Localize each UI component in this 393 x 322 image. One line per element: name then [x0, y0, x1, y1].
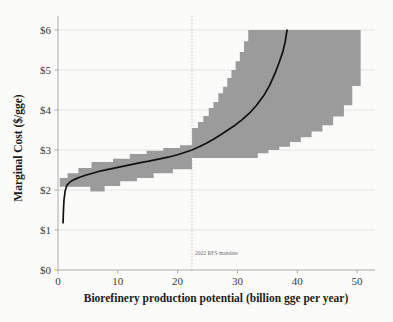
x-axis-title: Biorefinery production potential (billio… [84, 292, 349, 305]
y-tick-label: $1 [40, 224, 51, 236]
uncertainty-band [60, 30, 361, 224]
y-tick-label: $0 [40, 264, 52, 276]
y-axis-title: Marginal Cost ($/gge) [12, 94, 25, 201]
x-tick-label: 30 [232, 275, 244, 287]
x-tick-label: 20 [172, 275, 184, 287]
y-tick-label: $3 [40, 144, 52, 156]
x-tick-label: 40 [292, 275, 304, 287]
y-tick-label: $5 [40, 64, 52, 76]
mandate-annotation-label: 2022 RFS mandate [195, 250, 238, 256]
y-tick-label: $6 [40, 24, 52, 36]
y-tick-label: $2 [40, 184, 51, 196]
x-tick-label: 50 [352, 275, 364, 287]
uncertainty-band-area [60, 30, 361, 224]
x-axis-tick-labels: 01020304050 [55, 275, 363, 287]
y-axis-tick-labels: $0$1$2$3$4$5$6 [40, 24, 52, 276]
marginal-cost-supply-curve-chart: 2022 RFS mandate $0$1$2$3$4$5$6 01020304… [0, 0, 393, 322]
chart-container: 2022 RFS mandate $0$1$2$3$4$5$6 01020304… [0, 0, 393, 322]
x-tick-label: 10 [112, 275, 124, 287]
y-tick-label: $4 [40, 104, 52, 116]
x-tick-label: 0 [55, 275, 61, 287]
